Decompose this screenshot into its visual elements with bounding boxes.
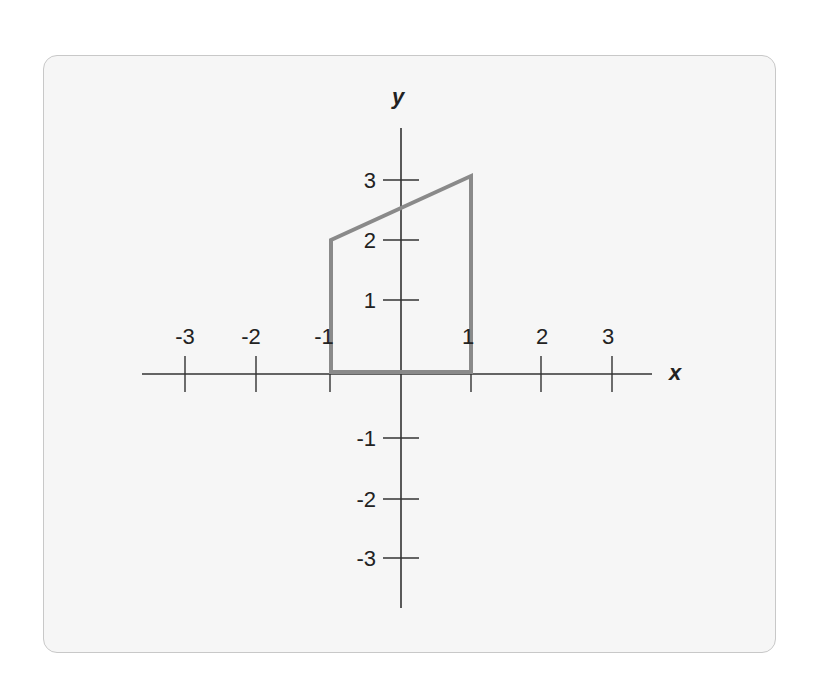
y-axis	[383, 128, 419, 608]
x-tick-label: -2	[241, 324, 261, 349]
x-tick-label: 1	[462, 324, 474, 349]
y-tick-label: 3	[364, 168, 376, 193]
y-tick-label: -1	[356, 426, 376, 451]
coordinate-plane: -3 -2 -1 1 2 3 3 2 1 -1 -2 -3 x y	[0, 0, 814, 697]
y-tick-label: 2	[364, 228, 376, 253]
y-axis-label: y	[391, 84, 406, 109]
x-axis-label: x	[668, 360, 682, 385]
x-tick-label: -1	[314, 324, 334, 349]
x-tick-label: -3	[175, 324, 195, 349]
x-tick-label: 3	[602, 324, 614, 349]
x-tick-label: 2	[536, 324, 548, 349]
y-tick-label: -3	[356, 546, 376, 571]
y-tick-label: -2	[356, 487, 376, 512]
y-tick-label: 1	[364, 288, 376, 313]
